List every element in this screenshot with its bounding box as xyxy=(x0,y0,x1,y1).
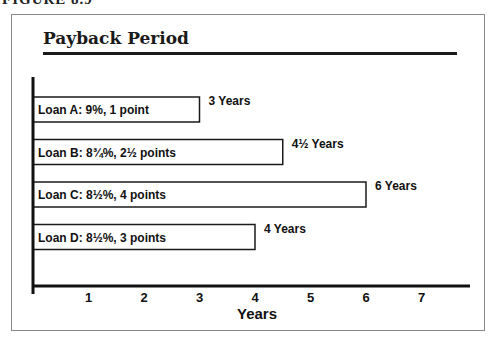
x-tick-label: 6 xyxy=(362,290,369,305)
bar-chart: Loan A: 9%, 1 point3 YearsLoan B: 8¾%, 2… xyxy=(0,0,503,346)
bar-value-label: 6 Years xyxy=(375,179,417,193)
x-tick-label: 3 xyxy=(196,290,203,305)
bar-value-label: 4½ Years xyxy=(292,137,344,151)
x-tick-label: 1 xyxy=(85,290,92,305)
x-tick-label: 7 xyxy=(418,290,425,305)
x-tick-label: 4 xyxy=(251,290,259,305)
bar-value-label: 4 Years xyxy=(264,222,306,236)
bar-category-label: Loan A: 9%, 1 point xyxy=(38,103,149,117)
bar-category-label: Loan B: 8¾%, 2½ points xyxy=(38,146,176,160)
bar-category-label: Loan D: 8½%, 3 points xyxy=(38,231,166,245)
bar-value-label: 3 Years xyxy=(209,94,251,108)
x-tick-label: 2 xyxy=(140,290,147,305)
x-tick-label: 5 xyxy=(307,290,314,305)
bar-category-label: Loan C: 8½%, 4 points xyxy=(38,188,166,202)
x-axis-label: Years xyxy=(237,305,277,322)
